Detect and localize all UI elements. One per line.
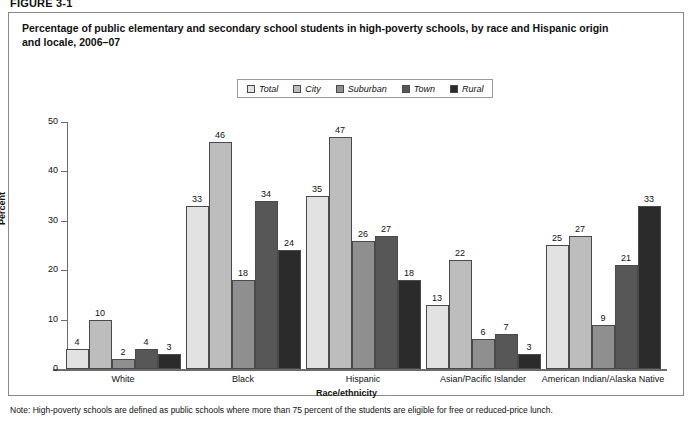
y-axis-tick-label: 10 [36, 314, 58, 324]
bar-rect [278, 250, 301, 369]
bar-value-label: 3 [526, 342, 531, 352]
bar-rect [426, 305, 449, 369]
bar-rect [375, 236, 398, 369]
legend-item-suburban[interactable]: Suburban [336, 84, 387, 94]
bar-rect [472, 339, 495, 369]
bar-rect [352, 241, 375, 369]
bar-town-hispanic[interactable]: 27 [375, 122, 398, 369]
bar-city-hispanic[interactable]: 47 [329, 122, 352, 369]
x-axis-line [53, 369, 667, 371]
bar-rect [89, 320, 112, 369]
bar-rect [615, 265, 638, 369]
bar-total-american-indian-alaska-native[interactable]: 25 [546, 122, 569, 369]
bar-value-label: 18 [404, 268, 414, 278]
legend-swatch-icon [450, 85, 458, 93]
chart-legend: TotalCitySuburbanTownRural [237, 79, 493, 98]
bar-rural-hispanic[interactable]: 18 [398, 122, 421, 369]
bar-rect [495, 334, 518, 369]
bar-town-asian-pacific-islander[interactable]: 7 [495, 122, 518, 369]
bar-rect [329, 137, 352, 369]
bar-total-hispanic[interactable]: 35 [306, 122, 329, 369]
bar-rect [135, 349, 158, 369]
bar-rect [592, 325, 615, 369]
bar-town-american-indian-alaska-native[interactable]: 21 [615, 122, 638, 369]
bar-value-label: 25 [552, 233, 562, 243]
bar-group: 3547262718Hispanic [306, 122, 421, 369]
bar-value-label: 47 [335, 125, 345, 135]
bar-value-label: 27 [381, 224, 391, 234]
bar-value-label: 26 [358, 229, 368, 239]
bar-city-asian-pacific-islander[interactable]: 22 [449, 122, 472, 369]
bar-rural-american-indian-alaska-native[interactable]: 33 [638, 122, 661, 369]
bar-group: 3346183424Black [186, 122, 301, 369]
bar-rect [569, 236, 592, 369]
bar-rect [66, 349, 89, 369]
y-axis-tick-label: 30 [36, 215, 58, 225]
bar-rural-white[interactable]: 3 [158, 122, 181, 369]
bar-value-label: 22 [455, 248, 465, 258]
chart-note: Note: High-poverty schools are defined a… [10, 405, 553, 415]
bar-rect [112, 359, 135, 369]
bar-rect [449, 260, 472, 369]
legend-swatch-icon [402, 85, 410, 93]
bar-rect [306, 196, 329, 369]
bar-city-white[interactable]: 10 [89, 122, 112, 369]
bar-total-white[interactable]: 4 [66, 122, 89, 369]
bar-value-label: 18 [238, 268, 248, 278]
y-axis-tick-label: 0 [36, 363, 58, 373]
bar-value-label: 34 [261, 189, 271, 199]
chart-plot-area: 410243White3346183424Black3547262718Hisp… [67, 122, 667, 369]
bar-value-label: 10 [95, 308, 105, 318]
bar-value-label: 7 [503, 322, 508, 332]
bar-city-black[interactable]: 46 [209, 122, 232, 369]
bar-total-black[interactable]: 33 [186, 122, 209, 369]
bar-value-label: 13 [432, 293, 442, 303]
bar-value-label: 9 [600, 313, 605, 323]
legend-swatch-icon [247, 85, 255, 93]
bar-group: 410243White [66, 122, 181, 369]
bar-value-label: 35 [312, 184, 322, 194]
bar-value-label: 21 [621, 253, 631, 263]
bar-total-asian-pacific-islander[interactable]: 13 [426, 122, 449, 369]
legend-item-label: Suburban [348, 84, 387, 94]
bar-rural-asian-pacific-islander[interactable]: 3 [518, 122, 541, 369]
figure-label: FIGURE 3-1 [10, 0, 73, 9]
y-axis-tick-label: 50 [36, 116, 58, 126]
bar-suburban-hispanic[interactable]: 26 [352, 122, 375, 369]
legend-item-label: Town [414, 84, 435, 94]
bar-suburban-american-indian-alaska-native[interactable]: 9 [592, 122, 615, 369]
bar-rect [638, 206, 661, 369]
legend-item-rural[interactable]: Rural [450, 84, 484, 94]
bar-suburban-black[interactable]: 18 [232, 122, 255, 369]
bar-value-label: 24 [284, 238, 294, 248]
bar-group: 252792133American Indian/Alaska Native [546, 122, 661, 369]
bar-value-label: 2 [120, 347, 125, 357]
legend-swatch-icon [336, 85, 344, 93]
bar-value-label: 4 [143, 337, 148, 347]
bar-rect [518, 354, 541, 369]
bar-rect [232, 280, 255, 369]
bar-rural-black[interactable]: 24 [278, 122, 301, 369]
legend-swatch-icon [293, 85, 301, 93]
bar-rect [158, 354, 181, 369]
y-axis-tick [61, 369, 67, 370]
y-axis-tick-label: 20 [36, 264, 58, 274]
x-axis-category-label: American Indian/Alaska Native [503, 374, 693, 384]
bar-rect [255, 201, 278, 369]
legend-item-label: Total [259, 84, 278, 94]
bar-value-label: 3 [166, 342, 171, 352]
legend-item-town[interactable]: Town [402, 84, 435, 94]
bar-town-black[interactable]: 34 [255, 122, 278, 369]
legend-item-label: Rural [462, 84, 484, 94]
bar-suburban-asian-pacific-islander[interactable]: 6 [472, 122, 495, 369]
bar-rect [186, 206, 209, 369]
y-axis-tick-label: 40 [36, 165, 58, 175]
bar-town-white[interactable]: 4 [135, 122, 158, 369]
legend-item-city[interactable]: City [293, 84, 321, 94]
bar-city-american-indian-alaska-native[interactable]: 27 [569, 122, 592, 369]
bar-value-label: 33 [192, 194, 202, 204]
bar-value-label: 6 [480, 327, 485, 337]
bar-suburban-white[interactable]: 2 [112, 122, 135, 369]
legend-item-total[interactable]: Total [247, 84, 278, 94]
bar-value-label: 27 [575, 224, 585, 234]
